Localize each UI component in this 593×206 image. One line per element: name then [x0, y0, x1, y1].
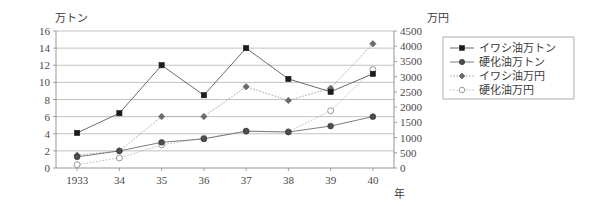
data-point-marker: [286, 76, 291, 81]
right-tick-label: 3500: [400, 55, 423, 67]
left-axis-unit-label: 万トン: [55, 12, 88, 24]
data-point-marker: [159, 63, 164, 68]
gridlines: [56, 31, 394, 151]
x-tick-label: 40: [367, 174, 379, 186]
x-tick-label: 34: [114, 174, 126, 186]
data-point-marker: [74, 154, 80, 160]
x-tick-label: 39: [325, 174, 337, 186]
left-axis-ticks: 0246810121416: [39, 25, 56, 174]
data-point-marker: [328, 89, 333, 94]
data-point-marker: [243, 84, 249, 90]
legend-label: イワシ油万トン: [479, 41, 556, 54]
line-chart: 万トン 万円 年 0246810121416 05001000150020002…: [0, 0, 593, 206]
left-tick-label: 2: [45, 145, 51, 157]
series-layer: [74, 41, 376, 168]
data-point-marker: [201, 113, 207, 119]
data-point-marker: [285, 129, 291, 135]
data-point-marker: [460, 46, 465, 51]
chart-legend: イワシ油万トン硬化油万トンイワシ油万円硬化油万円: [443, 37, 574, 99]
data-point-marker: [159, 139, 165, 145]
x-tick-label: 38: [283, 174, 295, 186]
x-tick-label: 36: [198, 174, 210, 186]
data-point-marker: [116, 148, 122, 154]
data-point-marker: [74, 162, 80, 168]
left-tick-label: 12: [39, 59, 50, 71]
right-axis-unit-label: 万円: [427, 12, 449, 24]
left-tick-label: 14: [39, 42, 51, 54]
left-tick-label: 4: [45, 128, 51, 140]
x-axis-unit-label: 年: [394, 187, 405, 200]
data-point-marker: [328, 123, 334, 129]
data-point-marker: [459, 59, 464, 64]
left-tick-label: 8: [45, 94, 51, 106]
x-tick-label: 1933: [66, 174, 89, 186]
series-0: [75, 46, 376, 136]
left-tick-label: 10: [39, 76, 51, 88]
right-tick-label: 500: [400, 147, 417, 159]
left-tick-label: 0: [45, 162, 51, 174]
x-axis-ticks: 193334353637383940: [66, 168, 379, 186]
legend-label: イワシ油万円: [479, 69, 545, 82]
data-point-marker: [243, 128, 249, 134]
data-point-marker: [75, 130, 80, 135]
data-point-marker: [459, 87, 465, 93]
x-tick-label: 37: [241, 174, 253, 186]
data-point-marker: [201, 136, 207, 142]
data-point-marker: [328, 108, 334, 114]
right-tick-label: 0: [400, 162, 406, 174]
right-tick-label: 3000: [400, 71, 423, 83]
data-point-marker: [285, 97, 291, 103]
data-point-marker: [370, 71, 375, 76]
data-point-marker: [116, 155, 122, 161]
right-tick-label: 1000: [400, 132, 423, 144]
x-tick-label: 35: [156, 174, 168, 186]
right-axis-ticks: 050010001500200025003000350040004500: [394, 25, 423, 174]
left-tick-label: 16: [39, 25, 51, 37]
data-point-marker: [201, 93, 206, 98]
legend-label: 硬化油万トン: [479, 55, 545, 68]
data-point-marker: [244, 46, 249, 51]
right-tick-label: 1500: [400, 116, 423, 128]
left-tick-label: 6: [45, 111, 51, 123]
series-1: [74, 114, 376, 160]
chart-container: 万トン 万円 年 0246810121416 05001000150020002…: [0, 0, 593, 206]
legend-label: 硬化油万円: [479, 83, 534, 96]
data-point-marker: [117, 111, 122, 116]
right-tick-label: 4500: [400, 25, 423, 37]
right-tick-label: 4000: [400, 40, 423, 52]
right-tick-label: 2500: [400, 86, 423, 98]
right-tick-label: 2000: [400, 101, 423, 113]
data-point-marker: [370, 114, 376, 120]
